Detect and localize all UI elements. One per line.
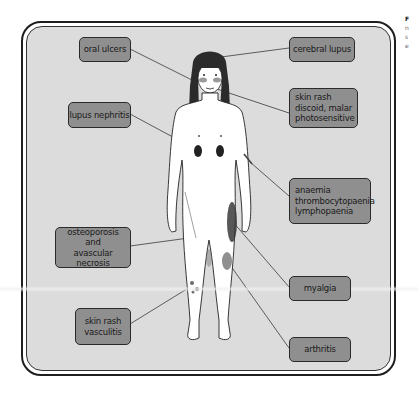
label-anaemia: anaemia thrombocytopaenia lymphopaenia xyxy=(289,178,371,224)
label-arthritis: arthritis xyxy=(289,337,351,362)
myalgia-thigh xyxy=(227,202,237,242)
label-skin-rash-discoid: skin rash discoid, malar photosensitive xyxy=(289,88,358,128)
torso xyxy=(167,93,251,340)
label-myalgia: myalgia xyxy=(289,276,351,301)
kidney-right xyxy=(216,145,224,157)
arthritis-knee xyxy=(222,252,232,270)
label-oral-ulcers: oral ulcers xyxy=(79,37,131,62)
label-cerebral-lupus: cerebral lupus xyxy=(289,37,355,62)
label-lupus-nephritis: lupus nephritis xyxy=(68,102,131,128)
side-text-fragment: F n s e xyxy=(405,14,418,50)
kidney-left xyxy=(194,145,202,157)
vasculitis-spot xyxy=(190,281,194,285)
label-osteoporosis: osteoporosis and avascular necrosis xyxy=(55,227,131,268)
label-skin-rash-vasculitis: skin rash vasculitis xyxy=(75,308,131,345)
